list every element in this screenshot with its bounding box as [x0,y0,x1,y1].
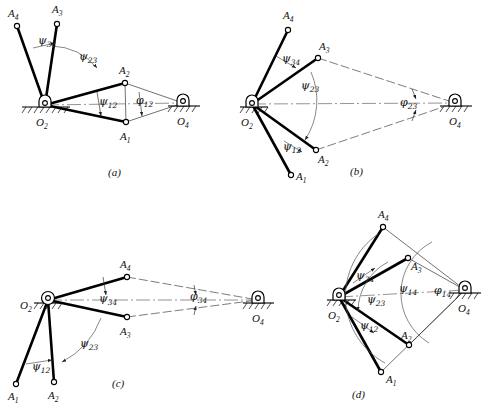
panel-a: A4 A3 A2 A1 O2 O4 ψ34 ψ23 ψ12 φ12 (a) [7,3,200,179]
pivot-o2-c [42,292,55,305]
link-o2-a4-c [48,277,127,300]
caption-a: (a) [108,166,121,179]
arc-phi23-upper-b [412,89,416,99]
label-psi12-a: ψ12 [99,95,117,110]
label-o4-c: O4 [252,312,264,327]
link-o2-a3 [45,24,57,105]
label-psi12-c: ψ12 [32,360,50,375]
joint-a3-d [405,255,410,260]
label-phi14-d: φ14 [434,284,451,299]
label-a2-c: A2 [47,389,59,404]
joint-a3-b [315,55,320,60]
diagram-canvas: A4 A3 A2 A1 O2 O4 ψ34 ψ23 ψ12 φ12 (a) [0,0,493,411]
joint-a4-c [124,274,129,279]
label-psi23-a: ψ23 [79,50,97,65]
label-a1-c: A1 [7,390,18,405]
pivot-o2-a [39,95,51,107]
joint-a4-d [380,224,385,229]
link-o2-a1-d [339,297,381,372]
figure-four-bar-synthesis: A4 A3 A2 A1 O2 O4 ψ34 ψ23 ψ12 φ12 (a) [0,0,493,411]
coupler-a2-o4 [125,83,183,103]
label-a2-a: A2 [118,64,130,79]
centerline-b [252,103,455,104]
panel-d: A4 A3 A2 A1 O2 O4 ψ34 ψ23 ψ12 ψ14 φ14 (d… [327,208,481,401]
joint-a1-d [378,369,383,374]
pivot-o4-b [449,94,461,106]
label-psi14-d: ψ14 [399,282,417,297]
label-psi12-b: ψ12 [283,140,301,155]
label-a4-a: A4 [7,7,19,22]
label-a4-b: A4 [282,9,294,24]
label-phi34-c: φ34 [190,290,207,305]
coupler-a4-o4-d [383,227,465,290]
label-a3-d: A3 [410,260,422,275]
caption-d: (d) [352,388,365,401]
joint-a4-b [285,27,290,32]
arc-phi23-lower-b [412,110,416,121]
label-phi23-b: φ23 [400,96,417,111]
label-a1-b: A1 [295,170,306,185]
pivot-o4-c [252,291,264,303]
label-psi34-c: ψ34 [99,292,117,307]
joint-a2-b [313,147,318,152]
coupler-a2-a1 [125,83,126,122]
joint-a2-c [51,379,56,384]
label-psi23-b: ψ23 [301,79,319,94]
label-a2-b: A2 [317,153,329,168]
panel-c: A4 A3 A2 A1 O2 O4 ψ34 ψ23 ψ12 φ34 (c) [7,258,274,405]
label-o2-d: O2 [328,309,340,324]
caption-c: (c) [112,377,125,390]
ground-hatch-o4-c [243,303,271,309]
label-o4-b: O4 [449,115,461,130]
joint-a4-a [14,23,19,28]
ground-hatch-o4-d [450,293,478,299]
label-a3-c: A3 [119,325,131,340]
pivot-o2-b [246,95,258,107]
label-o4-a: O4 [177,115,189,130]
joint-a1-b [288,172,293,177]
label-phi12-a: φ12 [136,94,153,109]
label-o4-d: O4 [458,302,470,317]
label-o2-a: O2 [36,116,48,131]
panel-b: A4 A3 A2 A1 O2 O4 ψ34 ψ23 ψ12 φ23 (b) [240,9,472,185]
pivot-o4-a [177,94,189,106]
label-psi34-b: ψ34 [282,52,300,67]
pivot-o4-d [459,281,471,293]
coupler-a1-o4 [126,103,183,122]
label-psi23-d: ψ23 [367,293,385,308]
joint-a3-c [124,314,129,319]
joint-a3-a [54,21,59,26]
coupler-a1-o4-d [381,290,465,372]
link-o2-a4-d [339,227,383,297]
pivot-o2-d [333,288,345,300]
label-psi34-a: ψ34 [38,34,56,49]
label-o2-b: O2 [241,116,253,131]
joint-a1-a [123,119,128,124]
label-o2-c: O2 [20,299,32,314]
coupler-a3-o4-b [318,58,455,103]
label-a1-a: A1 [119,130,130,145]
label-a3-b: A3 [318,40,330,55]
label-a4-d: A4 [377,208,389,223]
label-psi34-d: ψ34 [356,269,374,284]
caption-b: (b) [350,165,363,178]
label-a4-c: A4 [119,258,131,273]
label-a1-d: A1 [385,373,396,388]
joint-a1-c [13,381,18,386]
label-a3-a: A3 [51,3,63,18]
arc-phi34-lower-c [194,306,196,315]
coupler-a2-o4-b [316,103,455,150]
joint-a2-a [122,80,127,85]
